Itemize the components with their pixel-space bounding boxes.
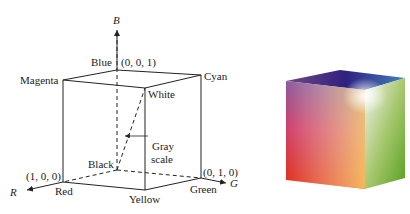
green-coord: (0, 1, 0) bbox=[203, 166, 238, 179]
scale-label: scale bbox=[151, 153, 173, 165]
cube-edges bbox=[63, 70, 201, 190]
r-axis-hidden bbox=[63, 170, 117, 182]
black-label: Black bbox=[88, 158, 114, 170]
cyan-label: Cyan bbox=[204, 70, 228, 82]
grayscale-diagonal bbox=[117, 88, 145, 170]
r-axis-label: R bbox=[9, 186, 17, 198]
green-label: Green bbox=[190, 183, 217, 195]
red-label: Red bbox=[55, 185, 73, 197]
gray-label: Gray bbox=[152, 140, 174, 152]
g-axis-hidden bbox=[117, 170, 201, 178]
yellow-label: Yellow bbox=[129, 193, 160, 205]
white-label: White bbox=[148, 88, 175, 100]
blue-label: Blue bbox=[91, 56, 112, 68]
rgb-color-cube-image bbox=[286, 70, 405, 189]
magenta-label: Magenta bbox=[20, 74, 59, 86]
red-coord: (1, 0, 0) bbox=[26, 170, 61, 183]
g-axis-label: G bbox=[230, 177, 238, 189]
rgb-cube-diagram: B R G Blue (0, 0, 1) Magenta Cyan White … bbox=[0, 0, 410, 214]
b-axis-label: B bbox=[113, 14, 120, 26]
blue-coord: (0, 0, 1) bbox=[121, 56, 156, 69]
